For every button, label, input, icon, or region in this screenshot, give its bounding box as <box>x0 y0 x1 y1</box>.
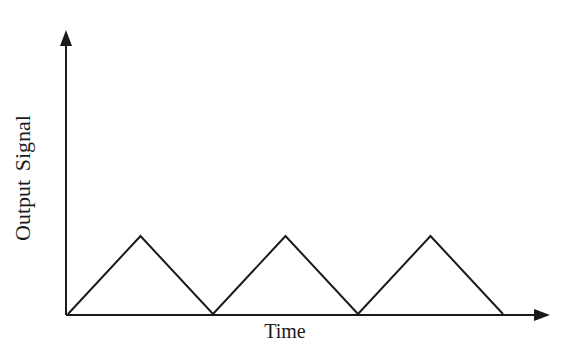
y-axis-arrow-icon <box>60 30 72 46</box>
x-axis-arrow-icon <box>534 309 550 321</box>
triangle-wave-series <box>68 236 503 314</box>
chart-canvas <box>0 0 570 352</box>
x-axis <box>66 309 550 321</box>
x-axis-label: Time <box>264 320 306 343</box>
y-axis <box>60 30 72 315</box>
y-axis-label: Output Signal <box>10 115 36 241</box>
